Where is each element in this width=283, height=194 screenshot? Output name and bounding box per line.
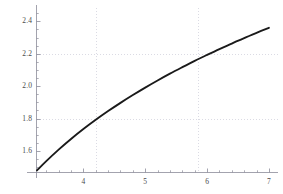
y-tick-label: 2.0: [8, 81, 32, 90]
x-tick-label: 4: [73, 177, 93, 186]
y-axis-ticks: [37, 22, 41, 152]
y-tick-label: 1.6: [8, 146, 32, 155]
horizontal-gridlines: [37, 55, 278, 120]
grid-lines: [37, 8, 278, 172]
y-tick-label: 2.2: [8, 49, 32, 58]
y-tick-label: 2.4: [8, 16, 32, 25]
x-axis-ticks: [84, 169, 270, 173]
plot-area: [0, 0, 283, 194]
axes: [27, 5, 278, 178]
data-curve: [37, 28, 269, 171]
x-tick-label: 5: [135, 177, 155, 186]
chart-container: 1.61.82.02.22.4 4567: [0, 0, 283, 194]
vertical-gridlines: [97, 8, 199, 172]
x-tick-label: 7: [259, 177, 279, 186]
y-tick-label: 1.8: [8, 114, 32, 123]
x-tick-label: 6: [197, 177, 217, 186]
